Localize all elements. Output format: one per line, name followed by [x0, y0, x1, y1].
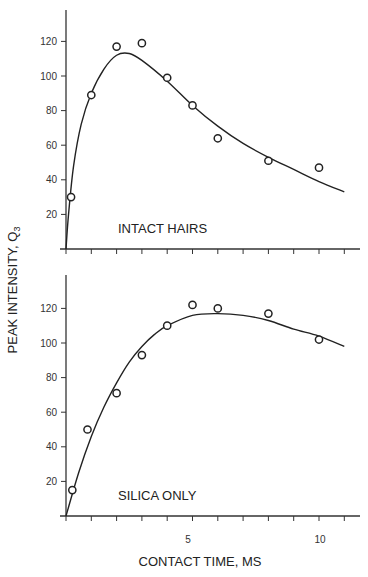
- x-tick-label-10: 10: [314, 534, 326, 545]
- data-point: [84, 426, 91, 433]
- data-point: [315, 164, 322, 171]
- data-point: [265, 157, 272, 164]
- y-tick-label: 120: [40, 303, 57, 314]
- data-point: [138, 352, 145, 359]
- panel-silica-only: 20406080100120: [40, 275, 360, 521]
- chart-figure: 20406080100120 20406080100120 INTACT HAI…: [0, 0, 368, 577]
- y-axis-title-subscript: 3: [12, 227, 22, 232]
- y-tick-label: 40: [46, 441, 58, 452]
- data-point: [265, 310, 272, 317]
- panel-intact-hairs: 20406080100120: [40, 10, 360, 254]
- data-point: [113, 43, 120, 50]
- data-point: [315, 336, 322, 343]
- data-point: [88, 91, 95, 98]
- data-point: [214, 135, 221, 142]
- y-tick-label: 20: [46, 209, 58, 220]
- data-point: [164, 322, 171, 329]
- y-tick-label: 80: [46, 372, 58, 383]
- y-tick-label: 60: [46, 407, 58, 418]
- data-point: [189, 301, 196, 308]
- fitted-curve: [66, 314, 344, 516]
- annotation-silica-only: SILICA ONLY: [118, 488, 197, 503]
- data-point: [214, 305, 221, 312]
- y-tick-label: 20: [46, 476, 58, 487]
- y-axis-title: PEAK INTENSITY, Q3: [5, 227, 22, 354]
- y-tick-label: 100: [40, 338, 57, 349]
- y-tick-label: 120: [40, 36, 57, 47]
- annotation-intact-hairs: INTACT HAIRS: [118, 221, 207, 236]
- svg-text:PEAK INTENSITY, Q3: PEAK INTENSITY, Q3: [5, 227, 22, 354]
- data-point: [69, 486, 76, 493]
- data-point: [138, 40, 145, 47]
- data-point: [113, 390, 120, 397]
- data-point: [164, 74, 171, 81]
- data-point: [67, 194, 74, 201]
- x-tick-label-5: 5: [185, 534, 191, 545]
- data-point: [189, 102, 196, 109]
- fitted-curve: [66, 53, 344, 249]
- y-tick-label: 40: [46, 174, 58, 185]
- y-axis-title-text: PEAK INTENSITY, Q: [5, 232, 20, 354]
- y-tick-label: 100: [40, 71, 57, 82]
- x-axis-title: CONTACT TIME, MS: [139, 554, 262, 569]
- y-tick-label: 80: [46, 105, 58, 116]
- y-tick-label: 60: [46, 140, 58, 151]
